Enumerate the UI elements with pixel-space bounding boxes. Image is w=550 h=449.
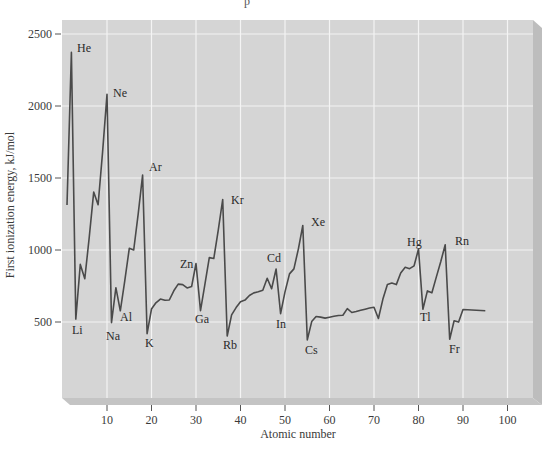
y-tick-label: 2000 [28,99,52,113]
x-tick-label: 30 [190,413,202,427]
plot-area [62,20,533,398]
label-kr: Kr [231,193,244,207]
label-al: Al [120,310,133,324]
x-tick-label: 10 [101,413,113,427]
label-tl: Tl [420,310,431,324]
label-rb: Rb [223,338,237,352]
y-tick-label: 1500 [28,171,52,185]
label-fr: Fr [449,342,460,356]
label-k: K [145,336,154,350]
x-tick-label: 20 [146,413,158,427]
label-li: Li [72,323,83,337]
y-tick-label: 2500 [28,27,52,41]
y-axis-title: First ionization energy, kJ/mol [3,131,17,278]
label-rn: Rn [455,234,469,248]
ionization-energy-chart: 5001000150020002500 10203040506070809010… [0,0,550,449]
label-ne: Ne [113,86,127,100]
x-tick-label: 100 [499,413,517,427]
label-hg: Hg [407,235,422,249]
label-in: In [276,317,286,331]
x-tick-label: 40 [235,413,247,427]
plot-bevel-bottom [62,398,542,405]
label-na: Na [106,329,121,343]
label-zn: Zn [180,257,193,271]
label-ar: Ar [149,160,162,174]
label-cs: Cs [305,343,318,357]
label-ga: Ga [195,312,210,326]
x-tick-label: 80 [413,413,425,427]
label-cd: Cd [267,251,281,265]
y-tick-label: 500 [34,315,52,329]
x-axis-title: Atomic number [260,427,336,441]
x-tick-label: 50 [279,413,291,427]
x-axis: 102030405060708090100 [101,405,517,427]
plot-bevel-side [533,20,542,405]
y-tick-label: 1000 [28,243,52,257]
x-tick-label: 60 [324,413,336,427]
label-he: He [77,41,91,55]
x-tick-label: 70 [368,413,380,427]
y-axis: 5001000150020002500 [28,27,61,329]
x-tick-label: 90 [457,413,469,427]
label-xe: Xe [311,215,325,229]
